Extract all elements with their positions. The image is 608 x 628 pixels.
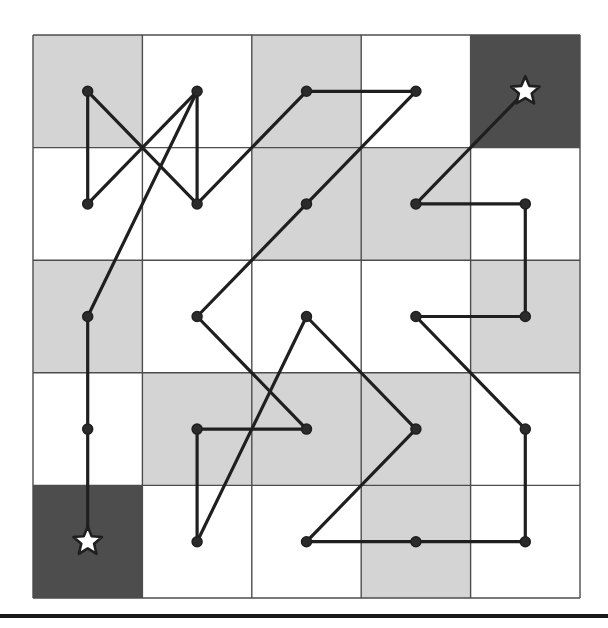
bottom-horizontal-rule <box>0 614 608 618</box>
path-node <box>192 312 202 322</box>
path-node <box>83 86 93 96</box>
path-node <box>411 424 421 434</box>
path-node <box>411 199 421 209</box>
path-node <box>520 312 530 322</box>
figure-container <box>0 0 608 628</box>
path-node <box>83 424 93 434</box>
path-node <box>520 424 530 434</box>
path-node <box>192 86 202 96</box>
path-node <box>302 86 312 96</box>
path-node <box>192 537 202 547</box>
path-node <box>83 199 93 209</box>
path-node <box>411 86 421 96</box>
path-node <box>302 537 312 547</box>
path-node <box>520 199 530 209</box>
path-node <box>520 537 530 547</box>
path-node <box>302 199 312 209</box>
path-node <box>192 199 202 209</box>
path-node <box>302 424 312 434</box>
path-node <box>83 312 93 322</box>
path-node <box>411 312 421 322</box>
path-node <box>302 312 312 322</box>
path-node <box>192 424 202 434</box>
grid-path-chart <box>0 0 608 628</box>
path-node <box>411 537 421 547</box>
